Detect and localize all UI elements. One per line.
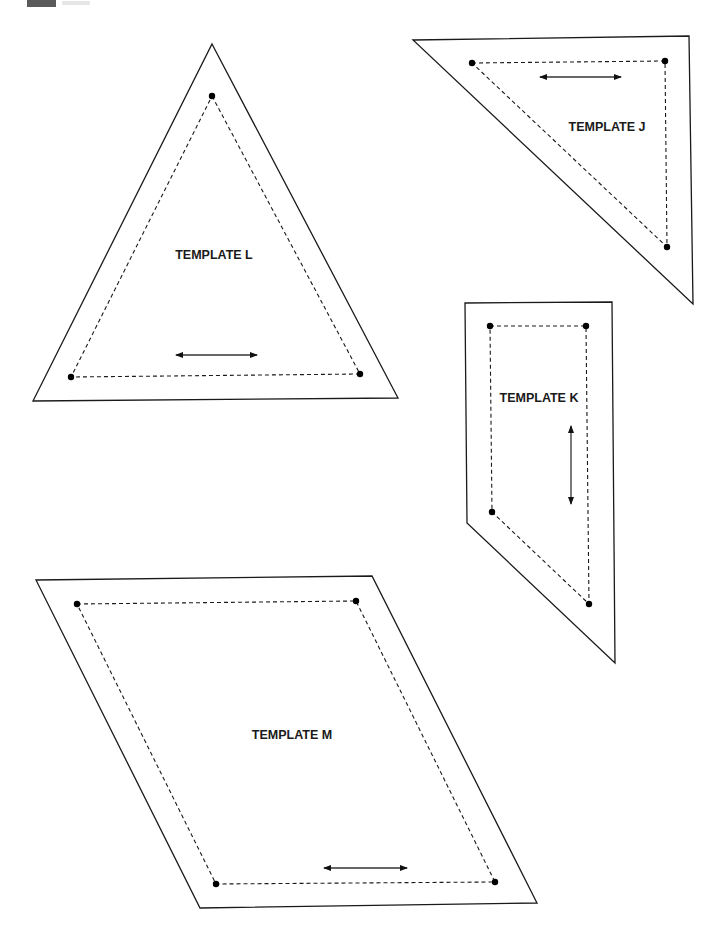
corner-dot-icon — [469, 60, 475, 66]
corner-dot-icon — [492, 879, 498, 885]
corner-dot-icon — [487, 323, 493, 329]
corner-dot-icon — [662, 58, 668, 64]
corner-dot-icon — [74, 601, 80, 607]
template-m: TEMPLATE M — [36, 576, 537, 908]
template-k-label: TEMPLATE K — [500, 391, 579, 405]
corner-dot-icon — [583, 323, 589, 329]
template-m-label: TEMPLATE M — [252, 728, 332, 742]
template-l: TEMPLATE L — [33, 44, 398, 401]
template-j-label: TEMPLATE J — [569, 120, 646, 134]
template-l-cutting-line — [33, 44, 398, 401]
corner-dot-icon — [68, 374, 74, 380]
templates-canvas: TEMPLATE L TEMPLATE J TEMPLATE K TEMPLAT… — [0, 0, 726, 936]
corner-dot-icon — [213, 881, 219, 887]
pattern-page: TEMPLATE L TEMPLATE J TEMPLATE K TEMPLAT… — [0, 0, 726, 936]
corner-dot-icon — [489, 509, 495, 515]
corner-dot-icon — [664, 244, 670, 250]
corner-dot-icon — [353, 598, 359, 604]
template-m-cutting-line — [36, 576, 537, 908]
corner-dot-icon — [586, 601, 592, 607]
template-k-cutting-line — [465, 302, 615, 663]
template-j-cutting-line — [413, 36, 693, 304]
template-l-label: TEMPLATE L — [175, 248, 253, 262]
corner-dot-icon — [209, 93, 215, 99]
corner-dot-icon — [357, 371, 363, 377]
template-j: TEMPLATE J — [413, 36, 693, 304]
template-k: TEMPLATE K — [465, 302, 615, 663]
